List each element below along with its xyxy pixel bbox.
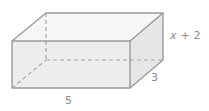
height-label: x + 2 (170, 30, 201, 41)
height-label-variable: x (170, 29, 177, 42)
prism-drawing (0, 0, 209, 111)
depth-label: 3 (151, 72, 158, 83)
prism-front-face (12, 41, 130, 88)
width-label: 5 (65, 95, 72, 106)
height-label-constant: 2 (194, 29, 201, 42)
rectangular-prism-figure: x + 2 3 5 (0, 0, 209, 111)
height-label-operator: + (180, 29, 189, 42)
